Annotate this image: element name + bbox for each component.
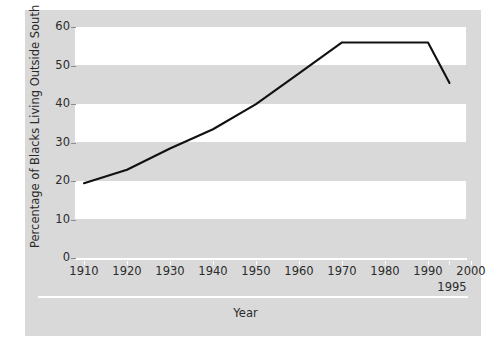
x-axis-title: Year: [0, 306, 491, 320]
x-tick-label-1940: 1940: [190, 266, 236, 278]
x-tick-label-1990: 1990: [405, 266, 451, 278]
background-band-20-10: [75, 181, 466, 219]
y-tick-mark-40: [71, 104, 76, 105]
plot-area: [75, 27, 466, 259]
background-band-60-50: [75, 27, 466, 65]
x-tick-label-1950: 1950: [233, 266, 279, 278]
x-axis-line: [75, 258, 467, 260]
axis-separator-line: [38, 296, 468, 298]
x-tick-mark-1995: [449, 261, 450, 265]
x-tick-label-1980: 1980: [362, 266, 408, 278]
x-tick-label-1970: 1970: [319, 266, 365, 278]
x-tick-label-1930: 1930: [147, 266, 193, 278]
x-tick-label-1920: 1920: [104, 266, 150, 278]
chart-figure: 60 50 40 30 20 10 0 Percentage of Blacks…: [0, 0, 491, 349]
y-tick-mark-20: [71, 181, 76, 182]
x-tick-label-2000: 2000: [448, 266, 491, 278]
y-tick-mark-0: [71, 258, 76, 259]
y-tick-mark-10: [71, 220, 76, 221]
y-tick-mark-30: [71, 143, 76, 144]
y-axis-title: Percentage of Blacks Living Outside Sout…: [28, 18, 42, 248]
x-tick-label-1910: 1910: [61, 266, 107, 278]
y-tick-label-0: 0: [30, 252, 70, 264]
y-tick-mark-50: [71, 66, 76, 67]
x-tick-label-1995: 1995: [429, 282, 475, 294]
x-tick-label-1960: 1960: [276, 266, 322, 278]
background-band-40-30: [75, 104, 466, 142]
y-tick-mark-60: [71, 27, 76, 28]
